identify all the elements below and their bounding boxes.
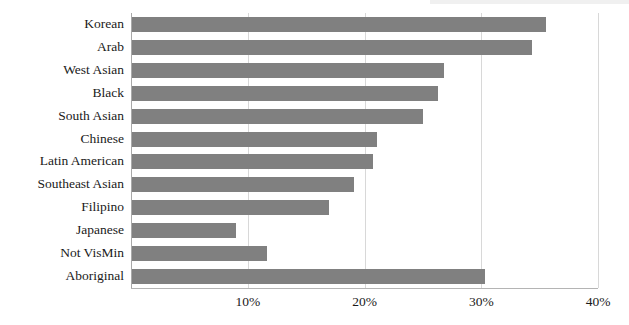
bar-japanese <box>132 223 236 238</box>
bars-layer <box>131 13 598 288</box>
gridline-40pct <box>598 13 599 288</box>
bar-filipino <box>132 200 329 215</box>
y-axis-label-latin-american: Latin American <box>0 153 124 168</box>
y-axis-label-chinese: Chinese <box>0 131 124 146</box>
x-axis-line <box>131 288 598 289</box>
bar-chart: KoreanArabWest AsianBlackSouth AsianChin… <box>0 0 629 325</box>
y-axis-label-japanese: Japanese <box>0 222 124 237</box>
bar-latin-american <box>132 154 373 169</box>
y-axis-label-south-asian: South Asian <box>0 108 124 123</box>
x-tick-label-10pct: 10% <box>235 292 260 312</box>
bar-chinese <box>132 132 377 147</box>
y-axis-category-labels: KoreanArabWest AsianBlackSouth AsianChin… <box>0 13 124 288</box>
bar-west-asian <box>132 63 444 78</box>
y-axis-label-west-asian: West Asian <box>0 62 124 77</box>
bar-arab <box>132 40 532 55</box>
bar-not-vismin <box>132 246 267 261</box>
y-axis-label-korean: Korean <box>0 16 124 31</box>
x-tick-label-30pct: 30% <box>469 292 494 312</box>
x-tick-label-20pct: 20% <box>352 292 377 312</box>
bar-southeast-asian <box>132 177 354 192</box>
y-axis-label-black: Black <box>0 85 124 100</box>
plot-area <box>131 13 598 288</box>
y-axis-label-not-vismin: Not VisMin <box>0 245 124 260</box>
y-axis-label-southeast-asian: Southeast Asian <box>0 176 124 191</box>
y-axis-label-aboriginal: Aboriginal <box>0 268 124 283</box>
x-tick-label-40pct: 40% <box>586 292 611 312</box>
x-axis-tick-labels: 10%20%30%40% <box>0 292 629 318</box>
bar-south-asian <box>132 109 423 124</box>
y-axis-label-filipino: Filipino <box>0 199 124 214</box>
bar-aboriginal <box>132 269 485 284</box>
bar-black <box>132 86 438 101</box>
bar-korean <box>132 17 546 32</box>
scan-artifact <box>430 0 629 4</box>
y-axis-label-arab: Arab <box>0 39 124 54</box>
